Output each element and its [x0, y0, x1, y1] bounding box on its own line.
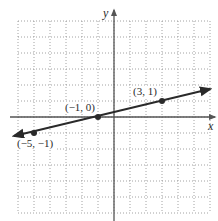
- point-3-1: [159, 98, 165, 104]
- point-neg5-neg1: [31, 130, 37, 136]
- point-label-3-1: (3, 1): [133, 85, 157, 98]
- y-axis-label: y: [102, 6, 109, 20]
- point-label-neg5-neg1: (−5, −1): [17, 137, 54, 150]
- point-label-neg1-0: (−1, 0): [65, 101, 95, 114]
- x-axis-label: x: [207, 119, 214, 133]
- coordinate-graph: y x (−5, −1) (−1, 0) (3, 1): [0, 0, 218, 221]
- graph-line: [14, 89, 210, 136]
- point-neg1-0: [95, 114, 101, 120]
